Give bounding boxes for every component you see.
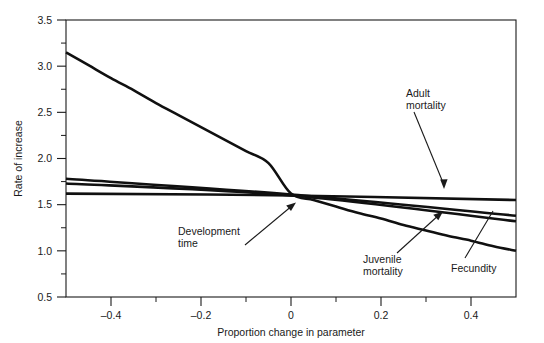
curve-fecundity	[66, 183, 516, 221]
x-tick-label-neg-0-2: –0.2	[191, 309, 212, 321]
adult-mortality-label-line1: Adult	[406, 87, 430, 99]
x-tick-label-0: 0	[288, 309, 294, 321]
x-tick-label-0-4: 0.4	[464, 309, 479, 321]
y-tick-label-0-5: 0.5	[37, 291, 52, 303]
y-tick-label-1-0: 1.0	[37, 245, 52, 257]
adult-mortality-arrowhead	[440, 179, 447, 189]
data-curves-group	[66, 52, 516, 251]
x-tick-label-0-2: 0.2	[374, 309, 389, 321]
y-axis-title: Rate of increase	[12, 120, 24, 197]
curve-development-time	[66, 52, 516, 251]
annotation-adult-mortality: Adult mortality	[406, 87, 448, 189]
development-time-arrow	[245, 205, 293, 245]
adult-mortality-label-line2: mortality	[406, 99, 446, 111]
y-tick-label-1-5: 1.5	[37, 198, 52, 210]
figure-container: 3.5 3.0 2.5 2.0 1.5 1.0 0.5 Rate of incr…	[0, 0, 544, 343]
annotation-juvenile-mortality: Juvenile mortality	[363, 212, 443, 278]
chart-canvas: 3.5 3.0 2.5 2.0 1.5 1.0 0.5 Rate of incr…	[0, 0, 544, 343]
y-tick-label-2-0: 2.0	[37, 152, 52, 164]
y-tick-label-3-5: 3.5	[37, 14, 52, 26]
annotation-fecundity: Fecundity	[451, 211, 497, 274]
development-time-label-line2: time	[178, 237, 198, 249]
juvenile-mortality-label-line2: mortality	[363, 265, 403, 277]
y-tick-label-3-0: 3.0	[37, 60, 52, 72]
adult-mortality-arrow	[414, 112, 444, 185]
annotation-development-time: Development time	[178, 203, 296, 250]
plot-frame	[66, 20, 516, 297]
y-axis-major-ticks	[57, 20, 66, 297]
x-axis-title: Proportion change in parameter	[217, 326, 365, 338]
fecundity-label: Fecundity	[451, 262, 497, 274]
x-axis-major-ticks	[111, 297, 471, 306]
x-tick-label-neg-0-4: –0.4	[101, 309, 122, 321]
development-time-label-line1: Development	[178, 225, 240, 237]
juvenile-mortality-label-line1: Juvenile	[363, 253, 402, 265]
y-tick-label-2-5: 2.5	[37, 106, 52, 118]
